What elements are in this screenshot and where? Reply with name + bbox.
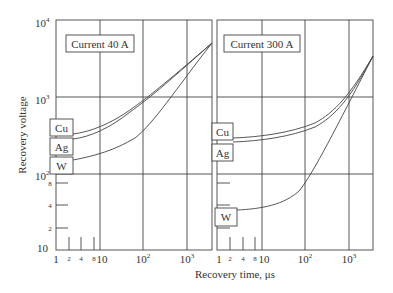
x-tick-1e3: 103: [180, 252, 195, 265]
chart-figure: Current 40 A Cu Ag W Current 300 A Cu Ag…: [0, 0, 393, 293]
x-axis-labels-300a: 1 2 4 8 10 102 103: [216, 252, 357, 265]
legend-cu-300a: Cu: [216, 126, 229, 138]
y-axis-title: Recovery voltage: [16, 96, 28, 173]
legend-ag-40a: Ag: [55, 141, 69, 153]
x-tick-1e3-r: 103: [342, 252, 357, 265]
panel-300a-title: Current 300 A: [231, 38, 294, 50]
x-axis-title: Recovery time, μs: [195, 268, 275, 280]
x-tick-1e2: 102: [136, 252, 151, 265]
x-tick-1-r: 1: [216, 253, 222, 265]
legend-ag-300a: Ag: [216, 147, 230, 159]
legend-cu-40a: Cu: [55, 122, 68, 134]
x-tick-4: 4: [79, 255, 83, 263]
legend-w-40a: W: [56, 160, 67, 172]
panel-300a: [217, 20, 373, 250]
x-tick-10: 10: [97, 253, 109, 265]
curve-40a-cu: [73, 43, 212, 134]
panel-40a-title: Current 40 A: [71, 38, 128, 50]
panel-300a-frame: [217, 20, 373, 250]
y-tick-2: 2: [48, 225, 52, 233]
x-tick-1e2-r: 102: [298, 252, 313, 265]
x-tick-1: 1: [53, 253, 59, 265]
legend-w-300a: W: [221, 211, 232, 223]
x-tick-10-r: 10: [259, 253, 271, 265]
y-tick-1e4: 104: [35, 16, 50, 29]
x-tick-8-r: 8: [253, 255, 257, 263]
y-tick-1e3: 103: [35, 93, 50, 106]
curve-300a-ag: [233, 56, 373, 142]
y-tick-4: 4: [48, 202, 52, 210]
x-tick-2: 2: [67, 255, 71, 263]
panel-40a-frame: [56, 20, 212, 250]
x-tick-2-r: 2: [228, 255, 232, 263]
y-tick-10: 10: [37, 242, 49, 254]
x-axis-labels-40a: 1 2 4 8 10 102 103: [53, 252, 195, 265]
curve-40a-ag: [73, 43, 212, 139]
panel-40a: [56, 20, 212, 250]
y-tick-8: 8: [48, 180, 52, 188]
x-tick-4-r: 4: [241, 255, 245, 263]
